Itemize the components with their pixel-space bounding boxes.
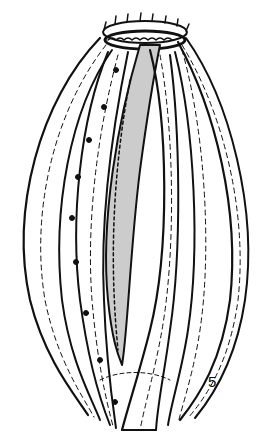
gourd-drawing [0,0,265,437]
right-panels [168,38,248,425]
illustration-canvas: 5 [0,0,265,437]
figure-number: 5 [208,373,216,390]
crown-rim [103,13,189,49]
